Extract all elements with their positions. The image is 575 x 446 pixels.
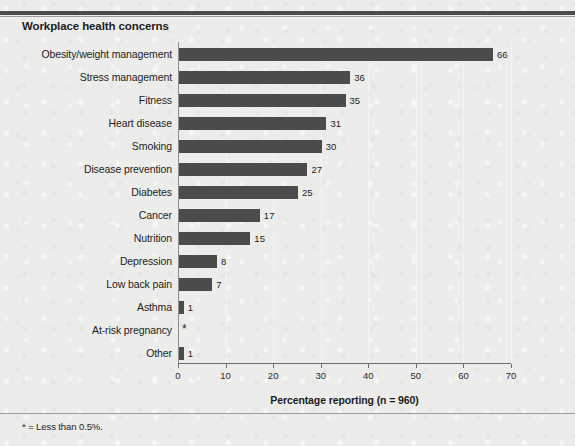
bar-value-label: 8 xyxy=(221,255,226,268)
bar-row: Disease prevention27 xyxy=(0,158,575,181)
bar-value-label: 66 xyxy=(497,48,508,61)
bar-row: Asthma1 xyxy=(0,296,575,319)
bar-row: Obesity/weight management66 xyxy=(0,43,575,66)
category-label: Fitness xyxy=(0,89,172,112)
x-tick-label-30: 30 xyxy=(315,370,326,381)
scan-artifact-text xyxy=(0,0,575,9)
bar-row: Depression8 xyxy=(0,250,575,273)
category-label: Stress management xyxy=(0,66,172,89)
x-tick-label-10: 10 xyxy=(220,370,231,381)
x-tick-label-20: 20 xyxy=(268,370,279,381)
bar xyxy=(179,140,322,153)
bar-value-label: 17 xyxy=(264,209,275,222)
top-rule-hairline xyxy=(0,16,575,17)
bar-value-label: 31 xyxy=(330,117,341,130)
bar-row: Heart disease31 xyxy=(0,112,575,135)
bar-value-label: 25 xyxy=(302,186,313,199)
bar-row: Stress management36 xyxy=(0,66,575,89)
bar-row: Smoking30 xyxy=(0,135,575,158)
category-label: Asthma xyxy=(0,296,172,319)
bar-value-label: 36 xyxy=(354,71,365,84)
bar-value-label: 35 xyxy=(350,94,361,107)
category-label: Depression xyxy=(0,250,172,273)
category-label: Heart disease xyxy=(0,112,172,135)
plot-area: 010203040506070 Obesity/weight managemen… xyxy=(0,42,575,367)
bottom-rule xyxy=(0,413,575,414)
figure-workplace-health-concerns: Workplace health concerns 01020304050607… xyxy=(0,0,575,446)
bar-value-label: 7 xyxy=(216,278,221,291)
bar xyxy=(179,255,217,268)
bar xyxy=(179,278,212,291)
category-label: Disease prevention xyxy=(0,158,172,181)
category-label: At-risk pregnancy xyxy=(0,319,172,342)
bar-row: Diabetes25 xyxy=(0,181,575,204)
bar xyxy=(179,347,184,360)
category-label: Diabetes xyxy=(0,181,172,204)
bar-value-label: 1 xyxy=(188,301,193,314)
chart-title: Workplace health concerns xyxy=(22,20,169,32)
bar-value-label: 15 xyxy=(254,232,265,245)
top-rule xyxy=(0,11,575,15)
category-label: Smoking xyxy=(0,135,172,158)
category-label: Other xyxy=(0,342,172,365)
category-label: Obesity/weight management xyxy=(0,43,172,66)
bar xyxy=(179,71,350,84)
bar-value-label: 27 xyxy=(311,163,322,176)
x-tick-label-70: 70 xyxy=(506,370,517,381)
bar xyxy=(179,117,326,130)
category-label: Nutrition xyxy=(0,227,172,250)
bar xyxy=(179,186,298,199)
bar xyxy=(179,94,346,107)
category-label: Low back pain xyxy=(0,273,172,296)
x-tick-label-0: 0 xyxy=(175,370,180,381)
bar xyxy=(179,163,307,176)
bar-value-label: * xyxy=(182,322,187,337)
bar xyxy=(179,301,184,314)
bar xyxy=(179,232,250,245)
bar-row: Low back pain7 xyxy=(0,273,575,296)
bar-row: Other1 xyxy=(0,342,575,365)
bar-value-label: 30 xyxy=(326,140,337,153)
x-tick-label-40: 40 xyxy=(363,370,374,381)
bar xyxy=(179,209,260,222)
bar xyxy=(179,48,493,61)
category-label: Cancer xyxy=(0,204,172,227)
x-tick-label-50: 50 xyxy=(411,370,422,381)
bar-row: Nutrition15 xyxy=(0,227,575,250)
bar-row: Fitness35 xyxy=(0,89,575,112)
bar-row: Cancer17 xyxy=(0,204,575,227)
bar-row: At-risk pregnancy* xyxy=(0,319,575,342)
footnote: * = Less than 0.5%. xyxy=(22,421,103,432)
bar-value-label: 1 xyxy=(188,347,193,360)
x-tick-label-60: 60 xyxy=(458,370,469,381)
x-axis-title: Percentage reporting (n = 960) xyxy=(178,394,511,406)
